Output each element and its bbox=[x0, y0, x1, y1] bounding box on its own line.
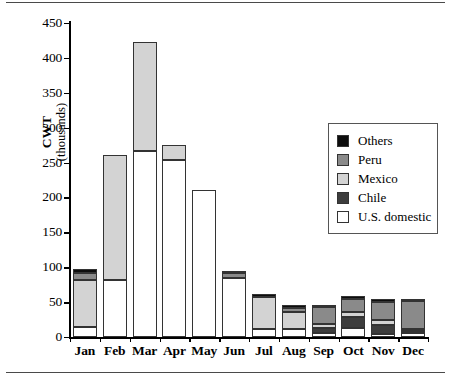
bar-segment-us[interactable] bbox=[252, 329, 276, 337]
legend-label: Chile bbox=[358, 191, 386, 204]
bar-segment-us[interactable] bbox=[341, 328, 365, 337]
bar-segment-us[interactable] bbox=[73, 327, 97, 337]
x-tick-mark bbox=[249, 337, 250, 342]
legend-label: Others bbox=[358, 134, 393, 147]
stacked-bar[interactable] bbox=[162, 145, 186, 337]
legend-label: Mexico bbox=[358, 172, 398, 185]
bar-segment-mexico[interactable] bbox=[371, 320, 395, 325]
y-tick-label: 200 bbox=[42, 191, 62, 205]
bar-segment-others[interactable] bbox=[312, 305, 336, 307]
y-tick-label: 50 bbox=[49, 295, 62, 309]
legend-swatch-mexico bbox=[337, 173, 349, 185]
x-tick-mark bbox=[279, 337, 280, 342]
stacked-bar[interactable] bbox=[401, 299, 425, 337]
bar-segment-others[interactable] bbox=[222, 271, 246, 273]
bar-segment-us[interactable] bbox=[282, 329, 306, 337]
y-tick-label: 300 bbox=[42, 121, 62, 135]
legend-item[interactable]: Others bbox=[337, 131, 431, 150]
bar-segment-others[interactable] bbox=[252, 294, 276, 297]
bar-segment-us[interactable] bbox=[401, 333, 425, 337]
stacked-bar[interactable] bbox=[222, 271, 246, 337]
bar-segment-us[interactable] bbox=[192, 190, 216, 337]
legend-swatch-chile bbox=[337, 192, 349, 204]
x-tick-mark bbox=[309, 337, 310, 342]
y-tick-mark bbox=[64, 58, 69, 59]
bar-segment-us[interactable] bbox=[133, 151, 157, 337]
stacked-bar[interactable] bbox=[371, 299, 395, 337]
bar-segment-us[interactable] bbox=[312, 333, 336, 337]
stacked-bar[interactable] bbox=[312, 305, 336, 337]
bar-segment-mexico[interactable] bbox=[162, 145, 186, 160]
legend: OthersPeruMexicoChileU.S. domestic bbox=[328, 123, 438, 234]
bar-segment-us[interactable] bbox=[222, 278, 246, 337]
stacked-bar[interactable] bbox=[103, 155, 127, 337]
legend-label: U.S. domestic bbox=[358, 210, 431, 223]
x-tick-mark bbox=[160, 337, 161, 342]
y-tick-mark bbox=[64, 128, 69, 129]
bar-segment-chile[interactable] bbox=[371, 325, 395, 333]
y-tick-mark bbox=[64, 337, 69, 338]
x-tick-mark bbox=[189, 337, 190, 342]
bar-segment-peru[interactable] bbox=[73, 273, 97, 280]
y-tick-mark bbox=[64, 163, 69, 164]
legend-swatch-peru bbox=[337, 154, 349, 166]
bar-segment-mexico[interactable] bbox=[252, 297, 276, 328]
bar-segment-chile[interactable] bbox=[341, 317, 365, 328]
bar-segment-us[interactable] bbox=[162, 160, 186, 337]
y-tick-label: 450 bbox=[42, 16, 62, 30]
legend-item[interactable]: Peru bbox=[337, 150, 431, 169]
bar-segment-mexico[interactable] bbox=[312, 324, 336, 328]
bar-segment-others[interactable] bbox=[401, 299, 425, 301]
y-tick-mark bbox=[64, 93, 69, 94]
legend-label: Peru bbox=[358, 153, 382, 166]
x-tick-label: Dec bbox=[393, 343, 433, 359]
legend-item[interactable]: Mexico bbox=[337, 169, 431, 188]
bar-segment-mexico[interactable] bbox=[341, 312, 365, 317]
stacked-bar[interactable] bbox=[73, 269, 97, 337]
x-tick-mark bbox=[339, 337, 340, 342]
bar-segment-us[interactable] bbox=[103, 280, 127, 337]
bar-segment-others[interactable] bbox=[341, 296, 365, 299]
bar-segment-others[interactable] bbox=[73, 269, 97, 272]
y-tick-mark bbox=[64, 232, 69, 233]
bar-segment-us[interactable] bbox=[371, 334, 395, 337]
bar-segment-peru[interactable] bbox=[341, 299, 365, 312]
bar-segment-peru[interactable] bbox=[401, 301, 425, 329]
y-tick-label: 250 bbox=[42, 156, 62, 170]
legend-swatch-others bbox=[337, 135, 349, 147]
stacked-bar[interactable] bbox=[252, 294, 276, 337]
stacked-bar[interactable] bbox=[133, 42, 157, 337]
bar-segment-mexico[interactable] bbox=[282, 312, 306, 329]
y-tick-mark bbox=[64, 197, 69, 198]
bar-segment-peru[interactable] bbox=[282, 308, 306, 312]
x-tick-mark bbox=[100, 337, 101, 342]
bar-segment-mexico[interactable] bbox=[401, 329, 425, 331]
y-tick-mark bbox=[64, 302, 69, 303]
bar-segment-others[interactable] bbox=[371, 299, 395, 302]
bar-segment-peru[interactable] bbox=[371, 302, 395, 320]
y-tick-mark bbox=[64, 267, 69, 268]
legend-item[interactable]: Chile bbox=[337, 188, 431, 207]
bar-segment-peru[interactable] bbox=[312, 307, 336, 324]
bar-segment-mexico[interactable] bbox=[73, 280, 97, 327]
stacked-bar[interactable] bbox=[341, 296, 365, 337]
figure: CWT (thousands) 050100150200250300350400… bbox=[0, 0, 451, 377]
stacked-bar[interactable] bbox=[282, 305, 306, 337]
x-tick-mark bbox=[398, 337, 399, 342]
bar-segment-peru[interactable] bbox=[222, 273, 246, 279]
y-tick-mark bbox=[64, 23, 69, 24]
x-tick-mark bbox=[70, 337, 71, 342]
figure-bottom-rule bbox=[6, 372, 445, 373]
x-tick-mark bbox=[130, 337, 131, 342]
bar-segment-mexico[interactable] bbox=[133, 42, 157, 152]
x-tick-mark bbox=[428, 337, 429, 342]
y-tick-label: 0 bbox=[55, 330, 62, 344]
bar-segment-others[interactable] bbox=[282, 305, 306, 308]
stacked-bar[interactable] bbox=[192, 190, 216, 337]
bar-segment-chile[interactable] bbox=[312, 328, 336, 333]
x-tick-mark bbox=[219, 337, 220, 342]
figure-top-rule bbox=[6, 2, 445, 3]
x-tick-mark bbox=[368, 337, 369, 342]
bar-segment-mexico[interactable] bbox=[103, 155, 127, 281]
legend-item[interactable]: U.S. domestic bbox=[337, 207, 431, 226]
